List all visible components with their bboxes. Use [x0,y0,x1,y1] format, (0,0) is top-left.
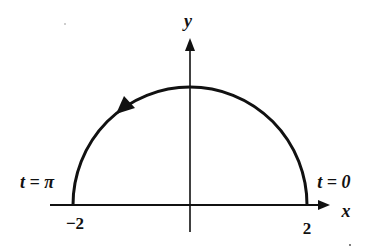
x-axis-label: x [341,201,351,221]
x-axis-arrow-icon [318,200,330,210]
scan-speck [349,244,351,246]
parametric-semicircle-diagram: y x −2 2 t = π t = 0 [0,0,370,250]
y-axis-arrow-icon [185,38,195,51]
annotation-t-pi: t = π [20,172,55,192]
tick-label-neg-2: −2 [66,214,84,233]
tick-label-2: 2 [303,219,312,238]
scan-speck [64,23,65,24]
y-axis [185,38,195,232]
y-axis-label: y [182,11,193,31]
arrowhead-icon [116,96,135,114]
annotation-t-0: t = 0 [317,172,350,192]
